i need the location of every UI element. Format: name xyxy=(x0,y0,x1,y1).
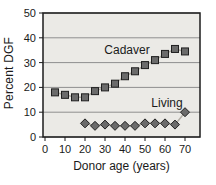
marker-cadaver-5 xyxy=(52,89,59,96)
x-tick-label-10: 10 xyxy=(59,143,71,155)
marker-cadaver-20 xyxy=(82,94,89,101)
y-tick-label-0: 0 xyxy=(30,131,36,143)
chart-svg: 01020304050607001020304050CadaverLiving xyxy=(0,0,216,185)
y-axis-label: Percent DGF xyxy=(2,35,16,111)
dgf-chart-figure: 01020304050607001020304050CadaverLiving … xyxy=(0,0,216,185)
marker-cadaver-35 xyxy=(112,80,119,87)
y-tick-label-20: 20 xyxy=(24,81,36,93)
x-tick-label-40: 40 xyxy=(119,143,131,155)
marker-cadaver-15 xyxy=(72,94,79,101)
y-tick-label-30: 30 xyxy=(24,57,36,69)
marker-cadaver-25 xyxy=(92,88,99,95)
x-tick-label-0: 0 xyxy=(42,143,48,155)
marker-cadaver-10 xyxy=(62,91,69,98)
marker-cadaver-45 xyxy=(132,68,139,75)
y-tick-label-50: 50 xyxy=(24,7,36,19)
marker-cadaver-30 xyxy=(102,84,109,91)
y-tick-label-40: 40 xyxy=(24,32,36,44)
series-label-cadaver: Cadaver xyxy=(104,43,149,57)
marker-cadaver-40 xyxy=(122,73,129,80)
x-axis-label: Donor age (years) xyxy=(43,159,200,173)
x-tick-label-60: 60 xyxy=(159,143,171,155)
marker-cadaver-50 xyxy=(142,62,149,69)
x-tick-label-20: 20 xyxy=(79,143,91,155)
x-tick-label-30: 30 xyxy=(99,143,111,155)
x-tick-label-50: 50 xyxy=(139,143,151,155)
x-tick-label-70: 70 xyxy=(179,143,191,155)
marker-cadaver-60 xyxy=(162,50,169,57)
marker-cadaver-70 xyxy=(182,48,189,55)
marker-cadaver-55 xyxy=(152,57,159,64)
y-tick-label-10: 10 xyxy=(24,106,36,118)
marker-cadaver-65 xyxy=(172,45,179,52)
series-label-living: Living xyxy=(151,96,182,110)
